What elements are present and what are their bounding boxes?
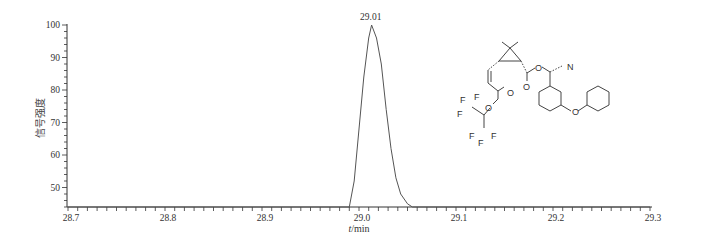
y-tick-label: 90 bbox=[51, 53, 61, 63]
x-tick-label: 28.9 bbox=[257, 213, 274, 223]
y-tick-label: 100 bbox=[46, 20, 61, 30]
x-ticks: 28.728.828.929.029.129.229.3 bbox=[63, 207, 662, 223]
svg-text:O: O bbox=[507, 88, 514, 98]
svg-text:N: N bbox=[567, 62, 574, 72]
y-axis-label: 信号强度 bbox=[34, 98, 46, 138]
x-tick-label: 29.0 bbox=[354, 213, 371, 223]
svg-text:F: F bbox=[491, 131, 497, 141]
svg-text:F: F bbox=[460, 95, 466, 105]
svg-text:F: F bbox=[457, 109, 463, 119]
x-tick-label: 28.8 bbox=[160, 213, 177, 223]
x-axis-label: t/min bbox=[348, 223, 369, 234]
y-tick-label: 50 bbox=[51, 183, 61, 193]
x-tick-label: 29.2 bbox=[548, 213, 565, 223]
y-tick-label: 60 bbox=[51, 150, 61, 160]
y-ticks: 5060708090100 bbox=[46, 20, 67, 207]
svg-text:O: O bbox=[523, 82, 530, 92]
peak-annotation: 29.01 bbox=[360, 12, 382, 22]
molecule-structure bbox=[472, 42, 609, 128]
y-tick-label: 80 bbox=[51, 85, 61, 95]
svg-text:F: F bbox=[469, 131, 475, 141]
y-tick-label: 70 bbox=[51, 118, 61, 128]
chromatogram-line bbox=[68, 25, 650, 207]
svg-text:F: F bbox=[474, 92, 480, 102]
svg-text:O: O bbox=[535, 63, 542, 73]
chromatogram-chart: 5060708090100 28.728.828.929.029.129.229… bbox=[0, 0, 702, 248]
svg-text:O: O bbox=[485, 103, 492, 113]
svg-text:F: F bbox=[478, 138, 484, 148]
x-tick-label: 28.7 bbox=[63, 213, 80, 223]
x-tick-label: 29.1 bbox=[451, 213, 468, 223]
x-tick-label: 29.3 bbox=[645, 213, 662, 223]
svg-text:O: O bbox=[572, 107, 579, 117]
